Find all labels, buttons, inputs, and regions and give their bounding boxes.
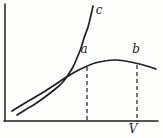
curve-c bbox=[17, 6, 93, 115]
point-a-label: a bbox=[80, 42, 87, 56]
curve-ab bbox=[12, 60, 156, 111]
curve-c-label: c bbox=[96, 3, 103, 17]
x-axis-label: V bbox=[129, 122, 139, 136]
figure-canvas: cabV bbox=[0, 0, 163, 138]
point-b-label: b bbox=[132, 42, 140, 56]
diagram-svg: cabV bbox=[0, 0, 163, 138]
